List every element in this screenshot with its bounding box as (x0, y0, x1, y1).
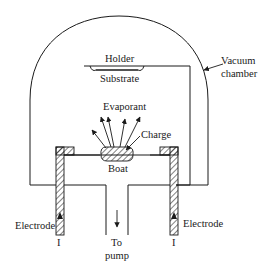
label-substrate: Substrate (100, 73, 139, 84)
evaporation-diagram: Holder Substrate Vacuum chamber Evaporan… (0, 0, 269, 277)
label-holder: Holder (105, 53, 135, 64)
label-evaporant: Evaporant (103, 101, 146, 112)
label-vacuum-line1: Vacuum (221, 55, 255, 66)
label-electrode-right: Electrode (183, 218, 224, 229)
label-vacuum-line2: chamber (221, 68, 258, 79)
label-pump-line2: pump (105, 250, 129, 261)
electrode-right (160, 147, 178, 235)
label-current-right: I (172, 237, 176, 248)
base-plate-right (128, 155, 170, 235)
electrode-left (56, 147, 74, 235)
label-boat: Boat (108, 163, 128, 174)
label-current-left: I (57, 237, 61, 248)
charge-arrow (126, 136, 140, 150)
label-electrode-left: Electrode (15, 220, 56, 231)
label-charge: Charge (141, 129, 171, 140)
boat (101, 147, 133, 161)
base-plate-left (64, 155, 106, 235)
label-pump-line1: To (111, 237, 122, 248)
